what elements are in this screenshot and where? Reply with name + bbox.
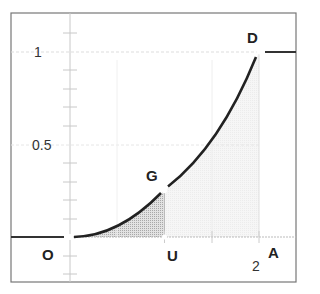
y-tick-1: 1 [34, 45, 42, 59]
point-o [67, 234, 73, 240]
label-d: D [247, 30, 258, 45]
point-g [162, 188, 167, 193]
point-d [257, 50, 262, 55]
y-tick-05: 0.5 [32, 138, 51, 152]
x-tick-2: 2 [252, 259, 260, 273]
label-g: G [146, 168, 158, 183]
label-a: A [268, 245, 279, 260]
label-o: O [42, 247, 54, 262]
label-u: U [167, 248, 178, 263]
point-u [162, 235, 167, 240]
